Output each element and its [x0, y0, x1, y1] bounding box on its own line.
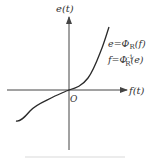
caption-faint	[25, 156, 125, 158]
svg-text:f=Φ-1R(e): f=Φ-1R(e)	[107, 53, 144, 68]
y-axis-label: e(t)	[56, 3, 74, 14]
characteristic-diagram: e(t) f(t) O e=ΦR(f) f=Φ-1R(e)	[0, 0, 157, 164]
equation-forward: e=ΦR(f)	[108, 38, 146, 51]
characteristic-curve	[16, 27, 109, 121]
svg-text:e=ΦR(f): e=ΦR(f)	[108, 38, 146, 51]
equation-inverse: f=Φ-1R(e)	[107, 53, 144, 68]
origin-label: O	[70, 94, 78, 104]
x-axis-label: f(t)	[128, 85, 145, 96]
